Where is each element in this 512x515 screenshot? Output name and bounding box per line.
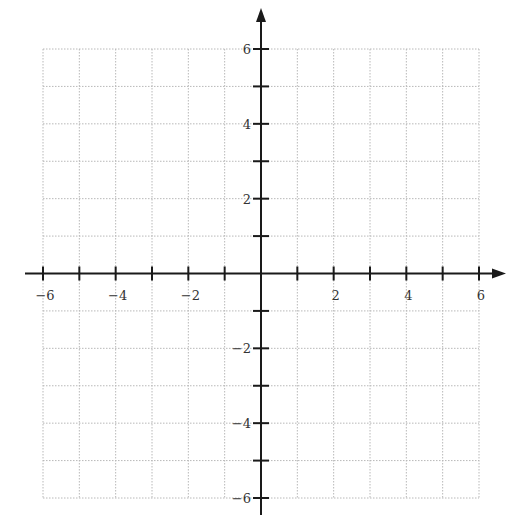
y-tick-label: −4 [232,416,251,431]
y-tick-label: 6 [243,42,251,57]
y-axis-arrow-icon [256,8,266,22]
x-tick-label: −6 [35,288,54,303]
coordinate-plane: −6−4−2246642−2−4−6 [0,0,512,515]
y-tick-label: 2 [243,192,251,207]
x-tick-label: −4 [108,288,127,303]
x-tick-label: 6 [477,288,485,303]
x-tick-label: −2 [181,288,200,303]
x-tick-label: 2 [332,288,340,303]
y-tick-label: 4 [243,117,251,132]
y-tick-label: −6 [232,491,251,506]
x-tick-label: 4 [404,288,412,303]
axes [25,8,506,515]
x-axis-arrow-icon [492,269,506,279]
y-tick-label: −2 [232,341,251,356]
